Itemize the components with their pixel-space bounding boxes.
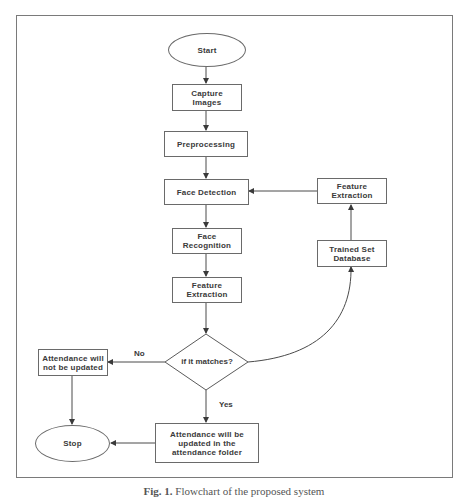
preprocessing-node: Preprocessing: [164, 131, 248, 157]
edge-label-no: No: [134, 349, 145, 358]
caption-prefix: Fig. 1.: [144, 485, 173, 497]
preprocessing-label: Preprocessing: [177, 140, 235, 149]
stop-label: Stop: [63, 439, 82, 448]
capture-images-node: Capture Images: [172, 84, 242, 111]
trained-set-database-label: Trained Set Database: [329, 245, 374, 263]
start-node: Start: [168, 33, 246, 67]
feature-extraction-left-label: Feature Extraction: [186, 281, 227, 299]
feature-extraction-right-label: Feature Extraction: [331, 182, 372, 200]
attendance-not-updated-label: Attendance will not be updated: [42, 354, 104, 372]
attendance-not-updated-node: Attendance will not be updated: [38, 349, 108, 376]
face-detection-label: Face Detection: [177, 188, 237, 197]
caption-text: Flowchart of the proposed system: [175, 485, 324, 497]
start-label: Start: [197, 46, 216, 55]
attendance-updated-node: Attendance will be updated in the attend…: [155, 423, 259, 463]
capture-images-label: Capture Images: [191, 89, 223, 107]
feature-extraction-left-node: Feature Extraction: [172, 277, 242, 303]
decision-label: if it matches?: [166, 357, 248, 366]
edge-label-yes: Yes: [219, 400, 233, 409]
face-recognition-node: Face Recognition: [172, 228, 242, 254]
feature-extraction-right-node: Feature Extraction: [317, 178, 387, 204]
trained-set-database-node: Trained Set Database: [317, 240, 387, 267]
stop-node: Stop: [35, 425, 110, 462]
arrow-decision-trained-set: [248, 267, 351, 362]
attendance-updated-label: Attendance will be updated in the attend…: [170, 430, 244, 457]
face-detection-node: Face Detection: [164, 179, 249, 205]
face-recognition-label: Face Recognition: [183, 232, 231, 250]
figure-caption: Fig. 1. Flowchart of the proposed system: [0, 485, 468, 497]
